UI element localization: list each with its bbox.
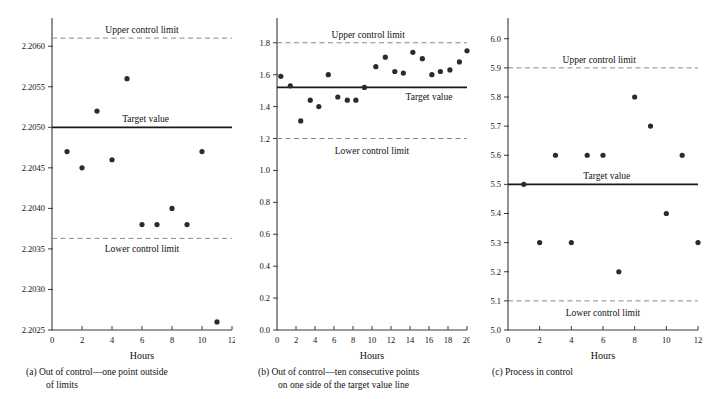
data-point — [308, 98, 313, 103]
data-point — [345, 98, 350, 103]
caption-b: (b) Out of control—ten consecutive point… — [258, 366, 473, 391]
x-tick-label: 2 — [538, 335, 542, 345]
data-point — [401, 70, 406, 75]
data-point-group — [278, 48, 469, 123]
data-point — [214, 319, 219, 324]
data-point — [154, 222, 159, 227]
caption-b-line2: on one side of the target value line — [278, 379, 473, 392]
y-tick-label: 5.3 — [490, 238, 501, 248]
y-tick-label: 5.8 — [490, 92, 501, 102]
x-tick-label: 10 — [198, 335, 207, 345]
x-tick-label: 16 — [425, 335, 434, 345]
figure-captions: (a) Out of control—one point outside of … — [0, 366, 705, 399]
data-point — [429, 72, 434, 77]
y-tick-label: 2.2025 — [22, 325, 45, 335]
data-point — [288, 83, 293, 88]
y-tick-label: 1.2 — [259, 134, 270, 144]
x-tick-label: 0 — [506, 335, 510, 345]
chart-b-svg: 0.00.20.40.60.81.01.21.41.61.80246810121… — [235, 0, 470, 360]
y-tick-label: 6.0 — [490, 34, 501, 44]
lower-control-limit-label: Lower control limit — [335, 146, 410, 156]
data-point — [326, 72, 331, 77]
data-point — [392, 69, 397, 74]
x-tick-label: 18 — [444, 335, 453, 345]
y-tick-label: 5.2 — [490, 267, 501, 277]
data-point — [585, 153, 590, 158]
target-value-label: Target value — [406, 92, 453, 102]
y-tick-label: 0.4 — [259, 261, 270, 271]
y-tick-label: 1.0 — [259, 165, 270, 175]
x-tick-label: 12 — [387, 335, 396, 345]
y-tick-label: 2.2045 — [22, 163, 45, 173]
data-point — [410, 50, 415, 55]
x-tick-label: 12 — [228, 335, 235, 345]
y-tick-label: 2.2030 — [22, 284, 45, 294]
x-axis-title: Hours — [130, 350, 155, 360]
chart-a-svg: 2.20252.20302.20352.20402.20452.20502.20… — [0, 0, 235, 360]
data-point — [335, 94, 340, 99]
data-point — [447, 67, 452, 72]
y-tick-label: 1.4 — [259, 102, 270, 112]
data-point — [298, 118, 303, 123]
caption-a-tag: (a) — [26, 367, 37, 377]
x-tick-label: 4 — [569, 335, 574, 345]
x-tick-label: 2 — [80, 335, 84, 345]
x-tick-label: 12 — [694, 335, 703, 345]
data-point — [64, 149, 69, 154]
data-point — [383, 55, 388, 60]
x-tick-label: 14 — [406, 335, 415, 345]
x-tick-label: 10 — [368, 335, 377, 345]
data-point — [316, 104, 321, 109]
x-tick-label: 8 — [633, 335, 637, 345]
control-chart-figure: 2.20252.20302.20352.20402.20452.20502.20… — [0, 0, 705, 399]
x-tick-label: 4 — [313, 335, 318, 345]
caption-c-line1: Process in control — [505, 367, 573, 377]
data-point — [139, 222, 144, 227]
y-tick-label: 5.6 — [490, 150, 501, 160]
caption-a-line2: of limits — [46, 379, 236, 392]
caption-a-line1: Out of control—one point outside — [39, 367, 168, 377]
data-point — [124, 76, 129, 81]
data-point — [632, 94, 637, 99]
x-axis-title: Hours — [360, 350, 385, 360]
y-tick-label: 2.2050 — [22, 122, 45, 132]
x-tick-label: 6 — [140, 335, 144, 345]
upper-control-limit-label: Upper control limit — [332, 30, 406, 40]
x-tick-label: 0 — [275, 335, 279, 345]
lower-control-limit-label: Lower control limit — [105, 244, 180, 254]
y-tick-label: 2.2040 — [22, 203, 45, 213]
y-tick-label: 5.5 — [490, 179, 501, 189]
y-tick-label: 5.1 — [490, 296, 501, 306]
caption-b-tag: (b) — [258, 367, 269, 377]
upper-control-limit-label: Upper control limit — [105, 25, 179, 35]
x-axis-title: Hours — [591, 350, 616, 360]
caption-c-tag: (c) — [492, 367, 503, 377]
y-tick-label: 5.7 — [490, 121, 501, 131]
data-point — [664, 211, 669, 216]
y-tick-label: 2.2055 — [22, 82, 45, 92]
y-tick-label: 0.8 — [259, 197, 270, 207]
data-point — [353, 98, 358, 103]
data-point — [569, 240, 574, 245]
x-tick-label: 20 — [463, 335, 470, 345]
data-point — [199, 149, 204, 154]
caption-a: (a) Out of control—one point outside of … — [26, 366, 236, 391]
x-tick-label: 2 — [294, 335, 298, 345]
chart-panel-a: 2.20252.20302.20352.20402.20452.20502.20… — [0, 0, 235, 360]
y-tick-label: 0.0 — [259, 325, 270, 335]
target-value-label: Target value — [583, 171, 630, 181]
data-point — [457, 59, 462, 64]
data-point — [537, 240, 542, 245]
data-point — [438, 69, 443, 74]
y-tick-label: 5.0 — [490, 325, 501, 335]
data-point — [648, 124, 653, 129]
data-point — [521, 182, 526, 187]
data-point — [373, 64, 378, 69]
y-tick-label: 2.2060 — [22, 41, 45, 51]
data-point — [278, 74, 283, 79]
x-tick-label: 6 — [601, 335, 605, 345]
data-point — [464, 48, 469, 53]
x-tick-label: 4 — [110, 335, 115, 345]
data-point — [695, 240, 700, 245]
data-point — [362, 85, 367, 90]
